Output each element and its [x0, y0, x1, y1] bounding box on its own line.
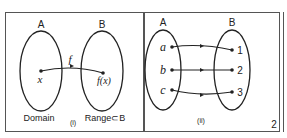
range-label: Range⊂B	[85, 113, 126, 123]
caption-ii: (ii)	[197, 117, 205, 125]
mapping-c-3	[172, 90, 232, 94]
set-b-label: B	[99, 19, 106, 30]
set-a-label: A	[38, 19, 45, 30]
caption-i: (i)	[70, 119, 76, 127]
element-c-label: c	[160, 83, 166, 97]
set-b-label: B	[229, 17, 236, 28]
panel-left: A B f x f(x) Domain (i) Range⊂B	[6, 13, 145, 132]
page-number: 2	[271, 119, 277, 130]
arrow-head-icon	[200, 68, 204, 72]
element-2-label: 2	[237, 65, 243, 76]
element-fx-label: f(x)	[97, 75, 112, 87]
mapping-label: f	[68, 53, 73, 65]
set-b-ellipse	[81, 31, 123, 111]
domain-label: Domain	[23, 113, 54, 123]
element-b-label: b	[160, 63, 166, 77]
element-x-label: x	[37, 73, 43, 85]
panel-right: A B a b c 1 2 3 (ii) 2	[144, 13, 280, 132]
set-a-label: A	[160, 17, 167, 28]
element-3-dot	[230, 90, 234, 94]
element-b-dot	[170, 68, 174, 72]
arrow-head-icon	[200, 44, 204, 48]
element-2-dot	[230, 68, 234, 72]
mapping-arrow	[41, 68, 103, 73]
element-3-label: 3	[237, 87, 243, 98]
element-1-label: 1	[237, 45, 243, 56]
element-c-dot	[170, 88, 174, 92]
element-1-dot	[230, 48, 234, 52]
element-a-dot	[170, 45, 174, 49]
element-a-label: a	[160, 40, 166, 54]
function-diagram: A B f x f(x) Domain (i) Range⊂B A B	[0, 0, 287, 138]
